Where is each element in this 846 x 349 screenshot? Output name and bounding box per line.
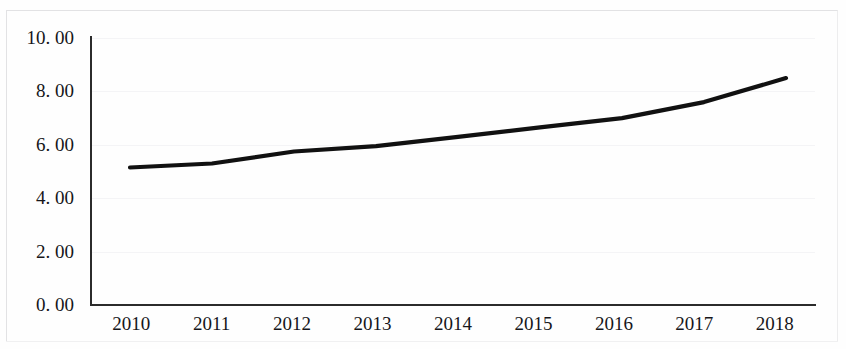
x-tick-label: 2017 xyxy=(675,313,713,335)
x-tick-label: 2013 xyxy=(354,313,392,335)
x-tick-label: 2018 xyxy=(756,313,794,335)
series-layer xyxy=(0,0,846,349)
chart-figure: 10. 00 8. 00 6. 00 4. 00 2. 00 0. 00 201… xyxy=(0,0,846,349)
x-tick-label: 2015 xyxy=(514,313,552,335)
x-tick-label: 2014 xyxy=(434,313,472,335)
x-tick-label: 2016 xyxy=(595,313,633,335)
x-tick-label: 2012 xyxy=(273,313,311,335)
x-axis-tick-labels: 2010 2011 2012 2013 2014 2015 2016 2017 … xyxy=(91,313,815,347)
x-tick-label: 2011 xyxy=(193,313,230,335)
x-tick-label: 2010 xyxy=(112,313,150,335)
line-series-path xyxy=(130,78,786,167)
